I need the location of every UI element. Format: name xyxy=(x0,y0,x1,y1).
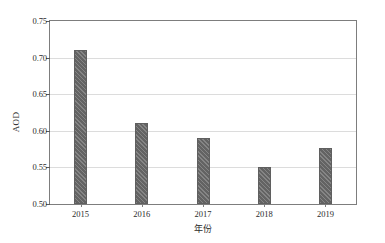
x-tick-label-2019: 2019 xyxy=(317,209,334,219)
bar-2017 xyxy=(197,138,210,204)
bar-2016 xyxy=(135,123,148,204)
gridline xyxy=(50,131,356,132)
x-tick-label-2016: 2016 xyxy=(133,209,150,219)
x-tick-label-2018: 2018 xyxy=(256,209,273,219)
y-tick-label: 0.55 xyxy=(33,162,47,172)
y-axis-title: AOD xyxy=(11,111,21,131)
x-axis-title: 年份 xyxy=(49,222,357,235)
x-tick-label-2017: 2017 xyxy=(195,209,212,219)
y-tick-label: 0.65 xyxy=(33,89,47,99)
gridline xyxy=(50,58,356,59)
bar-2015 xyxy=(74,50,87,204)
x-tick-mark xyxy=(81,204,82,207)
plot-area: 0.500.550.600.650.700.75 201520162017201… xyxy=(49,20,357,205)
aod-bar-chart: AOD 0.500.550.600.650.700.75 20152016201… xyxy=(0,0,385,243)
x-tick-mark xyxy=(142,204,143,207)
x-tick-mark xyxy=(264,204,265,207)
y-tick-label: 0.75 xyxy=(33,16,47,26)
x-tick-mark xyxy=(325,204,326,207)
y-tick-label: 0.70 xyxy=(33,53,47,63)
y-tick-label: 0.60 xyxy=(33,126,47,136)
bar-2019 xyxy=(319,148,332,204)
bar-2018 xyxy=(258,167,271,204)
x-tick-label-2015: 2015 xyxy=(72,209,89,219)
gridline xyxy=(50,94,356,95)
y-tick-label: 0.50 xyxy=(33,199,47,209)
x-tick-mark xyxy=(203,204,204,207)
